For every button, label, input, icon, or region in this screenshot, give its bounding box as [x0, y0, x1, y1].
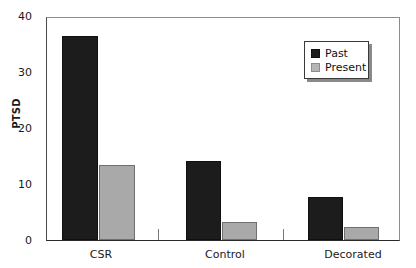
y-tick-label-20: 20 [4, 122, 32, 135]
legend-label-past: Past [325, 48, 348, 59]
x-tick-separator-1 [158, 229, 159, 240]
x-tick-label-decorated: Decorated [313, 248, 393, 261]
y-tick-label-0: 0 [4, 234, 32, 247]
bar-csr-past [62, 36, 98, 240]
bar-decorated-present [344, 227, 379, 240]
y-tick-label-30: 30 [4, 66, 32, 79]
legend-label-present: Present [325, 62, 366, 73]
x-tick-separator-2 [283, 229, 284, 240]
bar-control-present [222, 222, 257, 240]
y-tick-label-40: 40 [4, 10, 32, 23]
legend: Past Present [304, 41, 369, 79]
y-tick-label-10: 10 [4, 178, 32, 191]
bar-decorated-past [308, 197, 343, 240]
legend-entry-past: Past [311, 48, 348, 59]
bar-control-past [186, 161, 221, 240]
ptsd-bar-chart: PTSD 0 10 20 30 40 Past Present [0, 0, 416, 268]
legend-entry-present: Present [311, 62, 366, 73]
x-tick-label-csr: CSR [66, 248, 136, 261]
legend-swatch-present-icon [311, 63, 320, 72]
x-tick-label-control: Control [190, 248, 260, 261]
plot-area: Past Present [46, 17, 400, 241]
legend-swatch-past-icon [311, 49, 320, 58]
bar-csr-present [99, 165, 135, 240]
